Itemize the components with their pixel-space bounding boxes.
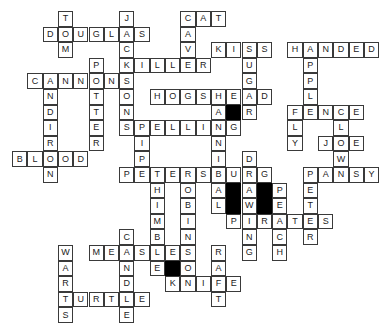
crossword-cell[interactable]: R <box>257 214 272 230</box>
crossword-cell[interactable]: G <box>242 73 257 89</box>
crossword-cell[interactable]: O <box>58 27 73 43</box>
crossword-cell[interactable]: D <box>119 276 134 292</box>
crossword-cell[interactable]: A <box>303 42 318 58</box>
crossword-cell[interactable]: E <box>150 120 165 136</box>
crossword-cell[interactable]: E <box>119 307 134 323</box>
crossword-cell[interactable]: L <box>104 27 119 43</box>
crossword-cell[interactable]: J <box>318 136 333 152</box>
crossword-cell[interactable]: G <box>226 120 241 136</box>
crossword-cell[interactable]: E <box>226 89 241 105</box>
crossword-cell[interactable]: S <box>196 167 211 183</box>
crossword-cell[interactable]: A <box>242 183 257 199</box>
crossword-cell[interactable]: I <box>180 214 195 230</box>
crossword-cell[interactable]: N <box>333 167 348 183</box>
crossword-cell[interactable]: S <box>119 73 134 89</box>
crossword-cell[interactable]: L <box>211 198 226 214</box>
crossword-cell[interactable]: E <box>180 58 195 74</box>
crossword-cell[interactable]: E <box>165 245 180 261</box>
crossword-cell[interactable]: B <box>12 151 27 167</box>
crossword-cell[interactable]: L <box>27 151 42 167</box>
crossword-cell[interactable]: I <box>196 276 211 292</box>
crossword-cell[interactable]: K <box>119 58 134 74</box>
crossword-cell[interactable]: N <box>211 136 226 152</box>
crossword-cell[interactable]: N <box>73 73 88 89</box>
crossword-cell[interactable]: L <box>165 120 180 136</box>
crossword-cell[interactable]: T <box>58 11 73 27</box>
crossword-cell[interactable]: D <box>364 42 379 58</box>
crossword-cell[interactable]: N <box>58 73 73 89</box>
crossword-cell[interactable]: A <box>272 214 287 230</box>
crossword-cell[interactable]: R <box>89 136 104 152</box>
crossword-cell[interactable]: I <box>134 136 149 152</box>
crossword-cell[interactable]: S <box>180 245 195 261</box>
crossword-cell[interactable]: T <box>89 89 104 105</box>
crossword-cell[interactable]: R <box>89 292 104 308</box>
crossword-cell[interactable]: N <box>318 105 333 121</box>
crossword-cell[interactable]: A <box>196 11 211 27</box>
crossword-cell[interactable]: C <box>27 73 42 89</box>
crossword-cell[interactable]: S <box>134 27 149 43</box>
crossword-cell[interactable]: D <box>242 151 257 167</box>
crossword-cell[interactable]: N <box>104 73 119 89</box>
crossword-cell[interactable]: J <box>119 11 134 27</box>
crossword-cell[interactable]: L <box>119 292 134 308</box>
crossword-cell[interactable]: T <box>287 214 302 230</box>
crossword-cell[interactable]: N <box>180 276 195 292</box>
crossword-cell[interactable]: P <box>303 167 318 183</box>
crossword-cell[interactable]: E <box>303 183 318 199</box>
crossword-cell[interactable]: O <box>180 183 195 199</box>
crossword-cell[interactable]: M <box>89 245 104 261</box>
crossword-cell[interactable]: A <box>211 261 226 277</box>
crossword-cell[interactable]: H <box>150 89 165 105</box>
crossword-cell[interactable]: I <box>196 120 211 136</box>
crossword-cell[interactable]: E <box>104 245 119 261</box>
crossword-cell[interactable]: E <box>303 214 318 230</box>
crossword-cell[interactable]: H <box>272 245 287 261</box>
crossword-cell[interactable]: E <box>134 292 149 308</box>
crossword-cell[interactable]: U <box>73 292 88 308</box>
crossword-cell[interactable]: T <box>211 11 226 27</box>
crossword-cell[interactable]: R <box>196 58 211 74</box>
crossword-cell[interactable]: A <box>242 89 257 105</box>
crossword-cell[interactable]: O <box>165 89 180 105</box>
crossword-cell[interactable]: G <box>242 245 257 261</box>
crossword-cell[interactable]: P <box>303 73 318 89</box>
crossword-cell[interactable]: E <box>349 42 364 58</box>
crossword-cell[interactable]: G <box>89 27 104 43</box>
crossword-cell[interactable]: R <box>43 136 58 152</box>
crossword-cell[interactable]: M <box>58 42 73 58</box>
crossword-cell[interactable]: Y <box>287 136 302 152</box>
crossword-cell[interactable]: N <box>242 229 257 245</box>
crossword-cell[interactable]: G <box>180 89 195 105</box>
crossword-cell[interactable]: M <box>150 214 165 230</box>
crossword-cell[interactable]: L <box>287 120 302 136</box>
crossword-cell[interactable]: T <box>211 292 226 308</box>
crossword-cell[interactable]: F <box>211 276 226 292</box>
crossword-cell[interactable]: P <box>134 151 149 167</box>
crossword-cell[interactable]: N <box>318 42 333 58</box>
crossword-cell[interactable]: R <box>303 229 318 245</box>
crossword-cell[interactable]: Y <box>364 167 379 183</box>
crossword-cell[interactable]: T <box>150 167 165 183</box>
crossword-cell[interactable]: A <box>211 105 226 121</box>
crossword-cell[interactable]: U <box>226 167 241 183</box>
crossword-cell[interactable]: T <box>104 292 119 308</box>
crossword-cell[interactable]: P <box>272 183 287 199</box>
crossword-cell[interactable]: R <box>180 167 195 183</box>
crossword-cell[interactable]: E <box>226 276 241 292</box>
crossword-cell[interactable]: C <box>180 11 195 27</box>
crossword-cell[interactable]: N <box>119 261 134 277</box>
crossword-cell[interactable]: E <box>165 167 180 183</box>
crossword-cell[interactable]: L <box>303 89 318 105</box>
crossword-cell[interactable]: N <box>180 229 195 245</box>
crossword-cell[interactable]: L <box>150 58 165 74</box>
crossword-cell[interactable]: B <box>211 167 226 183</box>
crossword-cell[interactable]: A <box>119 245 134 261</box>
crossword-cell[interactable]: S <box>242 42 257 58</box>
crossword-cell[interactable]: B <box>180 198 195 214</box>
crossword-cell[interactable]: B <box>150 229 165 245</box>
crossword-cell[interactable]: O <box>89 73 104 89</box>
crossword-cell[interactable]: S <box>134 245 149 261</box>
crossword-cell[interactable]: E <box>272 198 287 214</box>
crossword-cell[interactable]: H <box>150 183 165 199</box>
